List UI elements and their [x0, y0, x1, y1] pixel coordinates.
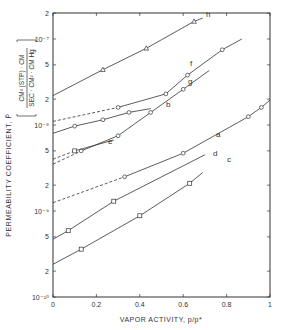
- data-point: [220, 48, 224, 52]
- series-e-extrapolation: [53, 151, 75, 159]
- series-label-f: f: [190, 59, 193, 68]
- data-point: [73, 149, 77, 153]
- permeability-chart: 210⁻⁷5210⁻⁸5210⁻⁹5210⁻¹⁰ 00.20.40.60.81 …: [0, 0, 283, 330]
- x-tick-label: 0.6: [178, 301, 188, 308]
- y-tick-label: 5: [45, 233, 49, 240]
- series-label-b: b: [166, 100, 171, 109]
- x-tick-label: 0.2: [92, 301, 102, 308]
- y-tick-label: 10⁻⁹: [34, 208, 49, 215]
- data-point: [164, 92, 168, 96]
- series-h-line: [53, 18, 203, 96]
- y-tick-label: 10⁻⁷: [35, 36, 50, 43]
- series-labels: hfgbeadc: [108, 10, 231, 164]
- data-point: [127, 111, 131, 115]
- series-label-g: g: [188, 77, 192, 86]
- data-point: [144, 46, 149, 50]
- x-tick-label: 0: [51, 301, 55, 308]
- data-series: [53, 18, 270, 264]
- data-point: [181, 151, 185, 155]
- data-point: [138, 214, 142, 218]
- plot-frame: [53, 13, 270, 297]
- series-label-d: d: [213, 149, 217, 158]
- y-tick-label: 2: [45, 268, 49, 275]
- data-point: [149, 111, 153, 115]
- series-label-h: h: [206, 10, 210, 19]
- x-tick-label: 0.8: [222, 301, 232, 308]
- y-axis-label: PERMEABILITY COEFFICIENT, P̄: [5, 113, 12, 236]
- x-axis-label: VAPOR ACTIVITY, p/p*: [120, 316, 203, 324]
- data-point: [73, 124, 77, 128]
- data-point: [116, 134, 120, 138]
- x-tick-label: 1: [268, 301, 272, 308]
- series-label-e: e: [108, 137, 113, 146]
- series-label-a: a: [216, 130, 221, 139]
- data-point: [259, 106, 263, 110]
- y-tick-label: 2: [45, 10, 49, 17]
- data-point: [79, 247, 83, 251]
- x-tick-label: 0.4: [135, 301, 145, 308]
- data-point: [188, 181, 192, 185]
- series-a-extrapolation: [53, 177, 125, 203]
- data-point: [116, 106, 120, 110]
- data-point: [101, 118, 105, 122]
- data-point: [123, 175, 127, 179]
- y-units-denominator: SEC · CM² · CM Hg: [28, 49, 36, 107]
- series-c-line: [53, 173, 203, 265]
- data-point: [112, 199, 116, 203]
- y-tick-label: 5: [45, 147, 49, 154]
- x-axis-ticks: 00.20.40.60.81: [51, 13, 272, 308]
- data-point: [246, 115, 250, 119]
- y-tick-label: 10⁻⁸: [34, 122, 49, 129]
- series-label-c: c: [227, 155, 231, 164]
- y-axis-units: CM³ (STP) · CM SEC · CM² · CM Hg: [17, 40, 36, 116]
- series-a-line: [125, 100, 270, 177]
- series-f-extrapolation: [53, 107, 118, 121]
- y-tick-label: 10⁻¹⁰: [32, 294, 49, 301]
- series-d-line: [53, 155, 205, 239]
- data-point: [181, 87, 185, 91]
- y-tick-label: 5: [45, 61, 49, 68]
- data-point: [66, 229, 70, 233]
- y-tick-label: 2: [45, 182, 49, 189]
- y-units-numerator: CM³ (STP) · CM: [18, 55, 26, 102]
- y-tick-label: 2: [45, 96, 49, 103]
